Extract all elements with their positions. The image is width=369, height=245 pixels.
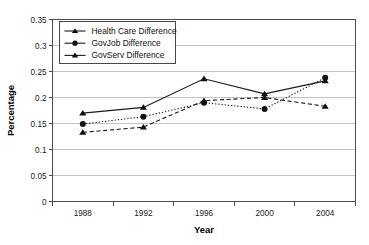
data-point-triangle <box>200 76 207 82</box>
x-tick-label: 1996 <box>195 209 214 218</box>
series-1 <box>79 76 329 116</box>
x-tick-label: 1988 <box>74 209 93 218</box>
data-point-circle <box>72 41 77 46</box>
series-3 <box>79 94 329 134</box>
y-tick-label: 0 <box>42 198 47 207</box>
data-point-circle <box>140 114 146 120</box>
data-point-circle <box>80 121 86 127</box>
x-tick-label: 2000 <box>255 209 274 218</box>
chart-container: 00.050.10.150.20.250.30.35 1988199219962… <box>0 0 369 245</box>
data-point-circle <box>262 106 268 112</box>
legend-label: GovJob Difference <box>92 38 162 48</box>
line-chart: 00.050.10.150.20.250.30.35 1988199219962… <box>0 0 369 245</box>
x-axis-title: Year <box>194 224 214 235</box>
y-tick-label: 0.3 <box>35 42 47 51</box>
y-tick-label: 0.25 <box>31 68 47 77</box>
y-tick-label: 0.1 <box>35 146 47 155</box>
chart-legend: Health Care DifferenceGovJob DifferenceG… <box>60 22 177 64</box>
y-tick-label: 0.2 <box>35 94 47 103</box>
x-axis-ticks: 19881992199620002004 <box>53 202 356 218</box>
data-point-triangle <box>140 124 147 130</box>
y-axis-ticks: 00.050.10.150.20.250.30.35 <box>31 16 53 207</box>
legend-label: GovServ Difference <box>92 50 165 60</box>
data-series-group <box>79 75 329 135</box>
y-tick-label: 0.35 <box>31 16 47 25</box>
legend-label: Health Care Difference <box>92 26 177 36</box>
x-tick-label: 2004 <box>316 209 335 218</box>
data-point-circle <box>322 75 328 81</box>
y-axis-title: Percentage <box>5 85 16 136</box>
x-tick-label: 1992 <box>134 209 153 218</box>
data-point-triangle <box>140 104 147 110</box>
y-tick-label: 0.15 <box>31 120 47 129</box>
y-tick-label: 0.05 <box>31 172 47 181</box>
